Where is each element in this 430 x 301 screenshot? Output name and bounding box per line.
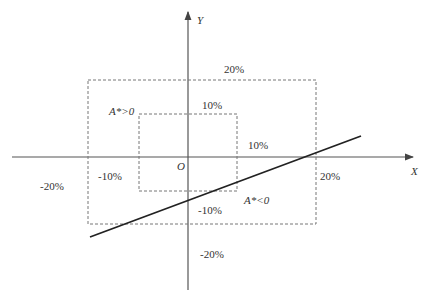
x-axis-label: X [411, 166, 418, 177]
y-axis-label: Y [197, 15, 203, 26]
outer-left-label: -20% [40, 181, 64, 192]
inner-top-label: 10% [202, 100, 222, 111]
inner-left-label: -10% [98, 171, 122, 182]
outer-top-label: 20% [224, 64, 244, 75]
boundary-line [90, 136, 361, 237]
outer-right-label: 20% [320, 171, 340, 182]
inner-bottom-label: -10% [198, 205, 222, 216]
origin-label: O [177, 161, 185, 172]
positive-annotation: A*>0 [109, 106, 134, 117]
inner-right-label: 10% [248, 140, 268, 151]
negative-annotation: A*<0 [244, 195, 269, 206]
outer-bottom-label: -20% [200, 249, 224, 260]
